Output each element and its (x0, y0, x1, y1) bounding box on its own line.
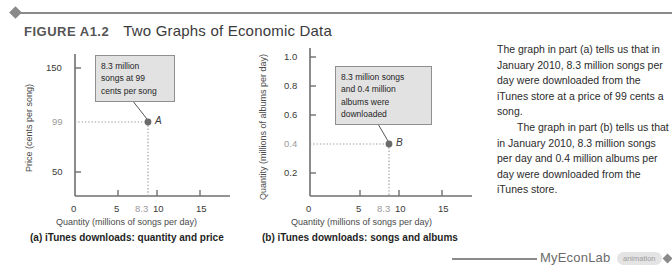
callout-a-line-3: cents per song (101, 85, 169, 97)
y-tick-label-b-06: 0.6 (284, 109, 297, 120)
y-axis-title-b: Quantity (millions of albums per day) (258, 54, 268, 200)
figure-root: FIGURE A1.2 Two Graphs of Economic Data (0, 0, 672, 280)
figure-number-label: FIGURE A1.2 (24, 24, 109, 39)
page-title: Two Graphs of Economic Data (123, 22, 332, 39)
explanatory-text: The graph in part (a) tells us that in J… (497, 42, 669, 198)
x-axis-title-a: Quantity (millions of songs per day) (56, 217, 197, 227)
data-point-a (145, 119, 152, 126)
side-paragraph-2: The graph in part (b) tells us that in J… (497, 120, 669, 198)
y-tick-label-a-99: 99 (52, 116, 63, 127)
annotation-callout-a: 8.3 million songs at 99 cents per song (95, 55, 175, 102)
panel-a-caption: (a) iTunes downloads: quantity and price (30, 232, 224, 243)
chart-panel-b: Quantity (millions of albums per day) 1.… (250, 44, 482, 234)
animation-badge[interactable]: animation (617, 252, 662, 265)
header-rule (16, 12, 672, 14)
x-tick-label-b-10: 10 (395, 203, 406, 214)
data-point-label-b: B (396, 137, 403, 148)
myeconlab-brand[interactable]: MyEconLab (540, 250, 610, 265)
x-tick-label-b-0: 0 (306, 203, 311, 214)
callout-b-line-4: downloaded (341, 108, 426, 120)
side-paragraph-1: The graph in part (a) tells us that in J… (497, 42, 669, 120)
callout-a-line-1: 8.3 million (101, 60, 169, 72)
footer-rule (452, 258, 537, 260)
x-tick-label-a-5: 5 (114, 203, 119, 214)
x-tick-label-a-0: 0 (71, 203, 76, 214)
x-axis-title-b: Quantity (millions of songs per day) (291, 217, 432, 227)
data-point-b (386, 141, 393, 148)
footer-diamond-ornament (663, 254, 672, 264)
callout-a-line-2: songs at 99 (101, 72, 169, 84)
y-tick-label-b-10: 1.0 (284, 51, 297, 62)
y-tick-label-b-08: 0.8 (284, 80, 297, 91)
y-axis-title-a: Price (cents per song) (24, 84, 34, 172)
x-tick-label-a-83: 8.3 (135, 203, 148, 214)
callout-b-line-1: 8.3 million songs (341, 71, 426, 83)
y-tick-label-b-04: 0.4 (284, 138, 297, 149)
x-tick-label-a-10: 10 (153, 203, 164, 214)
y-tick-label-b-02: 0.2 (284, 167, 297, 178)
data-point-label-a: A (155, 115, 162, 126)
x-tick-label-b-5: 5 (356, 203, 361, 214)
x-tick-label-a-15: 15 (196, 203, 207, 214)
callout-leader-a (132, 100, 147, 119)
x-tick-label-b-15: 15 (438, 203, 449, 214)
callout-b-line-2: and 0.4 million (341, 83, 426, 95)
callout-b-line-3: albums were (341, 96, 426, 108)
chart-panel-a: Price (cents per song) 150 99 50 0 5 8.3… (8, 44, 240, 234)
x-tick-label-b-83: 8.3 (377, 203, 390, 214)
figure-header: FIGURE A1.2 Two Graphs of Economic Data (24, 22, 332, 39)
callout-leader-b (378, 124, 388, 141)
y-tick-label-a-50: 50 (52, 166, 63, 177)
y-tick-label-a-150: 150 (46, 62, 62, 73)
annotation-callout-b: 8.3 million songs and 0.4 million albums… (335, 66, 432, 125)
panel-b-caption: (b) iTunes downloads: songs and albums (262, 232, 458, 243)
